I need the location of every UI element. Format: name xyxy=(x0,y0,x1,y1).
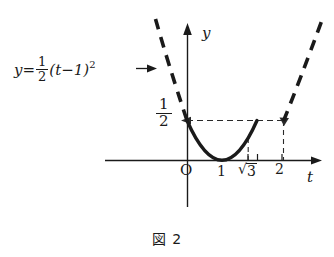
equation-body: (t−1) xyxy=(49,63,89,78)
half-fraction: 1 2 xyxy=(156,97,172,130)
sqrt-radicand: 3 xyxy=(246,163,257,178)
equation-coefficient-fraction: 1 2 xyxy=(36,55,48,83)
half-numerator: 1 xyxy=(156,97,172,113)
equation-pointer-arrow xyxy=(136,65,157,73)
equation-equals: = xyxy=(22,63,35,78)
x-tick-label-sqrt3: √ 3 xyxy=(238,162,257,178)
x-tick-label-1: 1 xyxy=(217,164,226,178)
figure-container: y = 1 2 (t−1) 2 1 2 O 1 √ 3 2 y t 図 2 xyxy=(0,0,334,257)
curve-solid-to-two xyxy=(257,113,284,121)
y-axis-half-label: 1 2 xyxy=(155,98,173,131)
equation-exponent: 2 xyxy=(89,60,95,70)
equation-annotation: y = 1 2 (t−1) 2 xyxy=(14,56,96,84)
x-tick-label-2: 2 xyxy=(275,162,284,176)
equation-lhs: y xyxy=(14,63,22,78)
curve-dashed-right-branch xyxy=(284,20,323,121)
equation-coefficient-numerator: 1 xyxy=(36,55,48,69)
guide-line-horizontal-half xyxy=(181,117,289,126)
y-axis-name: y xyxy=(202,26,210,41)
half-denominator: 2 xyxy=(156,113,172,130)
x-axis-name: t xyxy=(307,170,313,185)
curve-solid-segment xyxy=(187,121,257,161)
sqrt-expression: √ 3 xyxy=(238,162,257,178)
figure-caption: 図 2 xyxy=(0,228,334,248)
x-axis-ticks xyxy=(248,154,282,160)
equation-coefficient-denominator: 2 xyxy=(36,69,48,84)
origin-label: O xyxy=(180,163,192,178)
